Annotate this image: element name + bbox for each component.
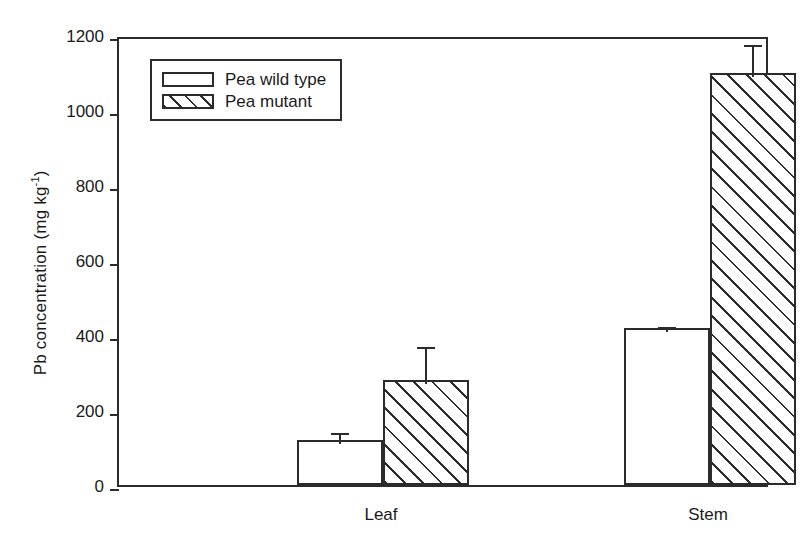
y-axis-tick-mark <box>110 489 119 491</box>
legend-swatch-hatched-icon <box>162 94 214 109</box>
error-bar-cap <box>744 45 762 47</box>
y-axis-tick-label: 400 <box>48 328 104 345</box>
legend-item-pea-wild-type: Pea wild type <box>162 68 326 90</box>
error-bar-cap <box>417 347 435 349</box>
y-axis-title-exponent: -1 <box>29 176 41 186</box>
y-axis-tick-mark <box>110 414 119 416</box>
legend-label-pea-wild-type: Pea wild type <box>225 71 326 88</box>
y-axis-tick-label: 600 <box>48 253 104 270</box>
y-axis-tick-mark <box>110 114 119 116</box>
error-bar-stem-pea-mutant <box>752 45 754 77</box>
legend-swatch-white-icon <box>162 72 214 87</box>
bar-stem-pea-wild-type <box>624 328 710 486</box>
bar-leaf-pea-wild-type <box>297 440 383 485</box>
error-bar-cap <box>658 327 676 329</box>
y-axis-tick-mark <box>110 39 119 41</box>
y-axis-tick-label: 1000 <box>48 103 104 120</box>
x-axis-tick-label-leaf: Leaf <box>321 505 441 525</box>
y-axis-tick-mark <box>110 189 119 191</box>
legend-label-pea-mutant: Pea mutant <box>225 93 312 110</box>
plot-area: Pea wild type Pea mutant <box>117 37 768 487</box>
y-axis-tick-labels: 120010008006004002000 <box>44 0 104 550</box>
x-axis-tick-label-stem: Stem <box>648 505 768 525</box>
bar-stem-pea-mutant <box>710 73 796 486</box>
y-axis-tick-mark <box>110 264 119 266</box>
legend-item-pea-mutant: Pea mutant <box>162 90 326 112</box>
y-axis-tick-label: 800 <box>48 178 104 195</box>
chart-legend: Pea wild type Pea mutant <box>150 59 342 121</box>
error-bar-cap <box>331 433 349 435</box>
bar-leaf-pea-mutant <box>383 380 469 485</box>
chart-figure: Pb concentration (mg kg-1) 1200100080060… <box>0 0 805 550</box>
y-axis-tick-label: 1200 <box>48 28 104 45</box>
error-bar-leaf-pea-mutant <box>425 347 427 385</box>
y-axis-tick-label: 0 <box>48 478 104 495</box>
y-axis-tick-mark <box>110 339 119 341</box>
y-axis-tick-label: 200 <box>48 403 104 420</box>
